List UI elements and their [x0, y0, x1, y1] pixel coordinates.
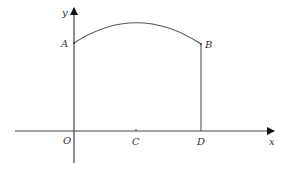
label-A: A [60, 38, 68, 49]
label-C: C [132, 136, 140, 147]
point-B [200, 43, 202, 45]
point-A [73, 42, 75, 44]
diagram-canvas: y x A B O C D [0, 0, 287, 171]
y-axis-label: y [61, 7, 68, 18]
label-B: B [204, 39, 212, 50]
label-D: D [196, 136, 205, 147]
arc-AB [74, 23, 201, 44]
label-O: O [63, 135, 71, 146]
x-axis-label: x [269, 136, 275, 147]
